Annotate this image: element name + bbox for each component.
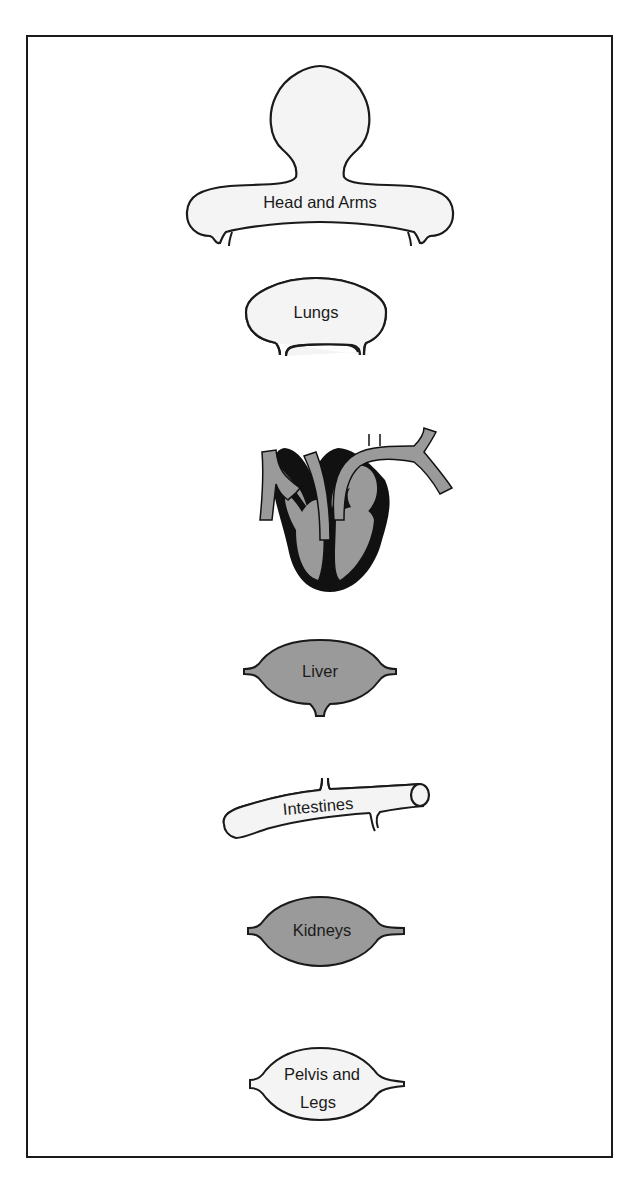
circulation-diagram: Head and Arms Lungs Liver	[0, 0, 639, 1182]
head-and-arms-label: Head and Arms	[263, 193, 377, 211]
lungs-shape: Lungs	[246, 278, 386, 356]
intestines-shape: Intestines	[224, 778, 429, 838]
kidneys-shape: Kidneys	[248, 897, 404, 966]
kidneys-label: Kidneys	[293, 921, 352, 939]
heart-shape	[260, 428, 452, 592]
head-and-arms-shape: Head and Arms	[187, 66, 453, 246]
lungs-label: Lungs	[294, 303, 339, 321]
liver-label: Liver	[302, 662, 338, 680]
pelvis-and-legs-label-line1: Pelvis and	[284, 1065, 360, 1083]
pelvis-and-legs-label-line2: Legs	[300, 1093, 336, 1111]
pelvis-and-legs-shape: Pelvis and Legs	[250, 1048, 404, 1120]
liver-shape: Liver	[244, 640, 396, 716]
